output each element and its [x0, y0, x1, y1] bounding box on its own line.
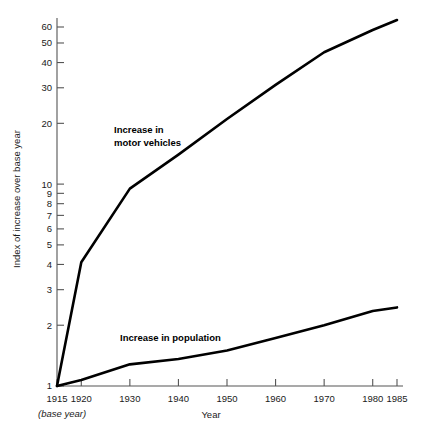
- series-line-motor-vehicles: [57, 20, 397, 386]
- y-axis-ticks: 123456789102030405060: [41, 21, 64, 391]
- x-tick-label: 1920: [71, 393, 92, 404]
- y-tick-label: 2: [47, 320, 52, 331]
- y-tick-label: 7: [47, 210, 52, 221]
- annotation-motor-vehicles: Increase in: [114, 124, 164, 135]
- y-tick-label: 30: [41, 82, 52, 93]
- y-tick-label: 50: [41, 37, 52, 48]
- y-tick-label: 4: [47, 259, 52, 270]
- chart-series: [57, 20, 397, 386]
- y-tick-label: 1: [47, 380, 52, 391]
- annotation-motor-vehicles: motor vehicles: [114, 137, 181, 148]
- series-line-population: [57, 307, 397, 386]
- line-chart: 123456789102030405060 191519201930194019…: [0, 0, 422, 434]
- y-tick-label: 10: [41, 179, 52, 190]
- x-tick-label: 1970: [314, 393, 335, 404]
- x-tick-label: 1950: [216, 393, 237, 404]
- y-tick-label: 40: [41, 57, 52, 68]
- x-axis-ticks: 191519201930194019501960197019801985: [46, 379, 407, 404]
- base-year-note: (base year): [38, 408, 86, 419]
- x-tick-label: 1930: [119, 393, 140, 404]
- y-tick-label: 3: [47, 284, 52, 295]
- y-tick-label: 5: [47, 239, 52, 250]
- x-tick-label: 1915: [46, 393, 67, 404]
- y-tick-label: 6: [47, 223, 52, 234]
- x-axis-title: Year: [201, 409, 220, 420]
- y-tick-label: 60: [41, 21, 52, 32]
- x-tick-label: 1960: [265, 393, 286, 404]
- x-tick-label: 1985: [386, 393, 407, 404]
- y-axis-title: Index of increase over base year: [11, 130, 22, 268]
- y-tick-label: 8: [47, 198, 52, 209]
- annotation-population: Increase in population: [120, 332, 221, 343]
- x-tick-label: 1980: [362, 393, 383, 404]
- chart-axes: [57, 18, 403, 386]
- y-tick-label: 20: [41, 118, 52, 129]
- chart-labels: Index of increase over base yearYear(bas…: [11, 124, 221, 420]
- x-tick-label: 1940: [168, 393, 189, 404]
- chart-container: 123456789102030405060 191519201930194019…: [0, 0, 422, 434]
